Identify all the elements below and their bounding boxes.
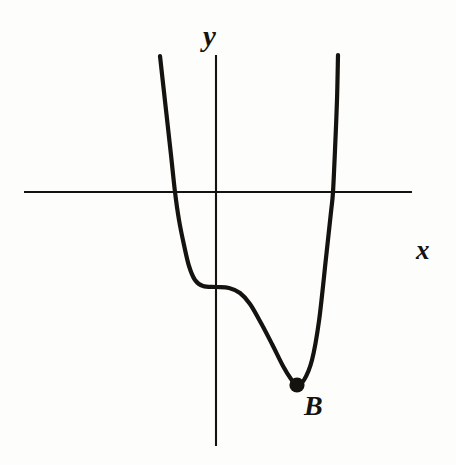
- function-curve: [160, 55, 338, 385]
- curve-group: [160, 55, 338, 385]
- x-axis-label: x: [416, 237, 430, 264]
- point-b-group: [289, 377, 304, 392]
- y-axis-label: y: [203, 22, 216, 51]
- graph-canvas: [0, 0, 456, 465]
- point-b-label: B: [304, 392, 323, 420]
- graph-figure: y x B: [0, 0, 456, 465]
- point-b-marker: [289, 377, 304, 392]
- axes-group: [24, 55, 412, 446]
